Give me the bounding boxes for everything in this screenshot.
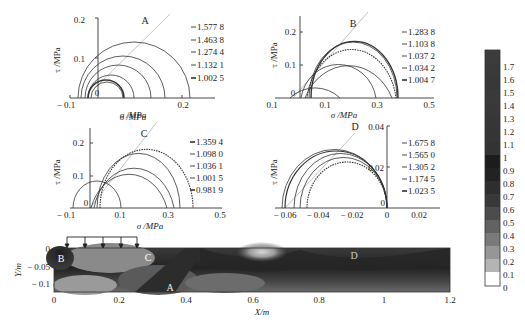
xtick: 0.1 (266, 100, 277, 110)
svg-text:0.2: 0.2 (503, 257, 514, 267)
x-axis-label: σ /MPa (120, 110, 147, 120)
point-a-label: A (166, 282, 174, 293)
ytick: 0.2 (285, 27, 296, 37)
svg-text:0.4: 0.4 (503, 231, 515, 241)
panel-d: 0.04 0.02 0 − 0.06 − 0.04 − 0.02 0 0.02 … (269, 110, 440, 220)
y-axis-label: τ /MPa (52, 159, 62, 184)
svg-text:1: 1 (503, 153, 508, 163)
panel-label: D (351, 121, 358, 132)
svg-text:0.9: 0.9 (503, 166, 515, 176)
panel-a: 0.2 0.1 0 − 0.1 0.2 σ /MPa τ /MPa A 1.57… (52, 14, 225, 122)
xtick: − 0.02 (340, 210, 363, 220)
ytick: 0.1 (74, 54, 85, 64)
svg-text:0.4: 0.4 (180, 295, 192, 305)
xtick: 0 (385, 210, 390, 220)
svg-text:1.174 5: 1.174 5 (408, 174, 436, 184)
y-ticks: 0 − 0.05 − 0.1 (27, 244, 51, 289)
svg-text:0: 0 (52, 295, 57, 305)
legend: 1.359 4 1.098 0 1.036 1 1.001 5 0.981 9 (190, 137, 224, 195)
ytick: 0.1 (285, 60, 296, 70)
svg-text:1.577 8: 1.577 8 (197, 22, 225, 32)
mohr-circles (73, 149, 193, 208)
svg-text:0: 0 (503, 283, 508, 293)
y-axis-label: τ /MPa (269, 159, 279, 184)
svg-text:1.463 8: 1.463 8 (197, 35, 225, 45)
svg-text:1.2: 1.2 (444, 295, 455, 305)
xtick: 0.1 (114, 210, 125, 220)
xtick: 0.3 (162, 210, 174, 220)
svg-text:0: 0 (46, 244, 51, 254)
svg-text:1.001 5: 1.001 5 (196, 173, 224, 183)
origin-label: 0 (381, 198, 386, 208)
svg-text:0.8: 0.8 (503, 179, 515, 189)
svg-text:0.5: 0.5 (503, 218, 515, 228)
panel-b: 0.2 0.1 0 0.1 0.1 0.3 0.5 τ /MPa B 1.283… (266, 12, 435, 110)
svg-text:0.1: 0.1 (503, 270, 514, 280)
svg-text:0.7: 0.7 (503, 192, 515, 202)
svg-text:1.023 5: 1.023 5 (408, 186, 436, 196)
panel-label: A (141, 15, 149, 26)
svg-text:1.2: 1.2 (503, 127, 514, 137)
svg-text:1.305 2: 1.305 2 (408, 162, 435, 172)
svg-text:1.7: 1.7 (503, 62, 515, 72)
xtick: 0.5 (214, 210, 226, 220)
xtick: 0.1 (319, 100, 330, 110)
x-axis-label: X/m (254, 307, 270, 317)
xtick: 0.5 (423, 100, 435, 110)
svg-text:1.037 2: 1.037 2 (408, 51, 435, 61)
x-axis-label: σ /MPa (331, 110, 358, 120)
ytick: 0.1 (73, 171, 84, 181)
xtick: 0.2 (177, 100, 188, 110)
legend: 1.577 8 1.463 8 1.274 4 1.132 1 1.002 5 (191, 22, 225, 83)
failure-envelope (285, 133, 355, 208)
xtick: 0.02 (411, 210, 427, 220)
svg-text:1.132 1: 1.132 1 (197, 60, 224, 70)
xtick: − 0.1 (57, 100, 76, 110)
svg-text:0.6: 0.6 (503, 205, 515, 215)
xtick: − 0.1 (57, 210, 76, 220)
failure-envelope (293, 12, 368, 98)
svg-text:1.103 8: 1.103 8 (408, 39, 436, 49)
colorbar-ticks: 1.7 1.6 1.5 1.4 1.3 1.2 1.1 1 0.9 0.8 0.… (503, 62, 515, 293)
y-axis-label: τ /MPa (52, 47, 62, 72)
svg-text:1.274 4: 1.274 4 (197, 47, 225, 57)
svg-text:1.034 2: 1.034 2 (408, 63, 435, 73)
svg-text:1.5: 1.5 (503, 88, 515, 98)
ytick: 0.2 (73, 138, 84, 148)
svg-text:1.565 0: 1.565 0 (408, 150, 436, 160)
origin-label: 0 (84, 198, 89, 208)
svg-text:− 0.05: − 0.05 (27, 262, 51, 272)
xtick: 0.3 (371, 100, 383, 110)
x-ticks: 0 0.2 0.4 0.6 0.8 1 1.2 (52, 295, 456, 305)
svg-text:1.3: 1.3 (503, 114, 515, 124)
svg-text:1.1: 1.1 (503, 140, 514, 150)
origin-label: 0 (95, 88, 100, 98)
legend: 1.675 8 1.565 0 1.305 2 1.174 5 1.023 5 (402, 138, 436, 196)
point-c-label: C (145, 252, 152, 263)
point-d-label: D (350, 250, 357, 261)
svg-text:0.3: 0.3 (503, 244, 515, 254)
point-b-label: B (58, 253, 65, 264)
svg-text:1.002 5: 1.002 5 (197, 73, 225, 83)
xtick: − 0.06 (273, 210, 297, 220)
figure: 0.2 0.1 0 − 0.1 0.2 σ /MPa τ /MPa A 1.57… (0, 0, 525, 324)
svg-text:− 0.1: − 0.1 (31, 279, 50, 289)
svg-text:0.981 9: 0.981 9 (196, 185, 224, 195)
panel-label: B (350, 18, 357, 29)
svg-text:1.004 7: 1.004 7 (408, 75, 436, 85)
svg-text:0.6: 0.6 (247, 295, 259, 305)
y-axis-label: τ /MPa (269, 42, 279, 67)
svg-text:1.283 8: 1.283 8 (408, 27, 436, 37)
colorbar: 1.7 1.6 1.5 1.4 1.3 1.2 1.1 1 0.9 0.8 0.… (485, 50, 515, 293)
svg-text:0.2: 0.2 (113, 295, 124, 305)
legend: 1.283 8 1.103 8 1.037 2 1.034 2 1.004 7 (402, 27, 436, 85)
origin-label: 0 (291, 88, 296, 98)
x-axis-label: σ /MPa (137, 221, 164, 231)
svg-text:1.675 8: 1.675 8 (408, 138, 436, 148)
mohr-circles (290, 41, 398, 98)
failure-envelope (95, 14, 170, 88)
svg-text:1.359 4: 1.359 4 (196, 137, 224, 147)
y-axis-label: Y/m (13, 263, 23, 278)
contour-plot: σ /MPa B C (13, 221, 456, 317)
svg-text:1.4: 1.4 (503, 101, 515, 111)
